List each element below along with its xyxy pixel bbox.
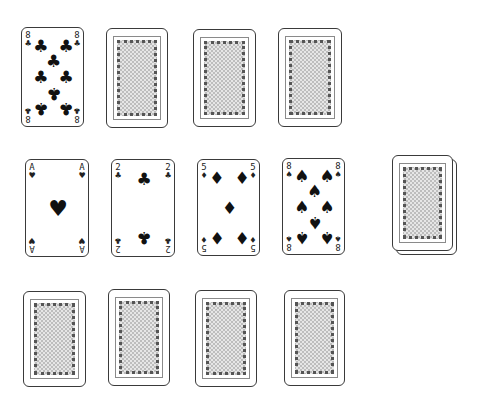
card-back-frame [30, 299, 79, 379]
card-back-frame [113, 36, 161, 120]
card-back-frame [399, 163, 446, 243]
club-pip-icon: ♣ [32, 100, 50, 117]
corner-index-bl: A♥ [28, 236, 36, 253]
card-back-pattern [295, 302, 334, 374]
rank-label: 8 [285, 242, 293, 251]
face-down-card-1-3[interactable] [193, 29, 256, 127]
corner-index-tl: 5♦ [200, 163, 208, 180]
card-8-of-spades[interactable]: 8♠8♠8♠8♠♠♠♠♠♠♠♠♠ [282, 158, 345, 255]
face-down-card-1-4[interactable] [278, 28, 342, 127]
diamond-icon: ♦ [200, 235, 208, 243]
corner-index-bl: 8♠ [285, 234, 293, 251]
rank-label: 2 [114, 244, 122, 253]
card-a-of-hearts[interactable]: A♥A♥A♥A♥♥ [25, 159, 89, 257]
face-down-card-3-1[interactable] [23, 291, 86, 387]
corner-index-tl: 8♠ [285, 162, 293, 179]
card-2-of-clubs[interactable]: 2♣2♣2♣2♣♣♣ [111, 159, 175, 257]
card-back-frame [291, 298, 338, 378]
club-icon: ♣ [114, 172, 122, 180]
draw-pile-deck[interactable] [392, 155, 453, 251]
heart-icon: ♥ [28, 172, 36, 180]
spade-pip-icon: ♠ [293, 229, 311, 246]
diamond-pip-icon: ♦ [233, 229, 251, 246]
face-down-card-3-4[interactable] [284, 290, 345, 386]
card-back-frame [202, 298, 250, 379]
card-back-frame [115, 297, 163, 378]
rank-label: A [28, 244, 36, 253]
card-back-pattern [119, 301, 159, 374]
card-8-of-clubs[interactable]: 8♣8♣8♣8♣♣♣♣♣♣♣♣♣ [21, 27, 84, 127]
spade-icon: ♠ [285, 171, 293, 179]
card-back-pattern [289, 40, 331, 115]
corner-index-tl: A♥ [28, 163, 36, 180]
card-back-pattern [206, 302, 246, 375]
club-pip-icon: ♣ [57, 100, 75, 117]
club-pip-icon: ♣ [135, 171, 153, 188]
face-down-card-1-2[interactable] [106, 28, 168, 128]
diamond-pip-icon: ♦ [208, 229, 226, 246]
corner-index-br: A♥ [78, 236, 86, 253]
card-back-frame [200, 37, 249, 119]
corner-index-tl: 8♣ [24, 31, 32, 48]
diamond-pip-icon: ♦ [208, 170, 226, 187]
heart-pip-icon: ♥ [47, 198, 69, 220]
card-back-pattern [204, 41, 245, 115]
corner-index-br: 2♣ [164, 236, 172, 253]
club-icon: ♣ [114, 236, 122, 244]
rank-label: A [78, 244, 86, 253]
corner-index-bl: 5♦ [200, 235, 208, 252]
corner-index-bl: 2♣ [114, 236, 122, 253]
card-back-frame [285, 36, 335, 119]
face-down-card-3-2[interactable] [108, 289, 170, 386]
club-icon: ♣ [24, 106, 32, 114]
rank-label: 5 [200, 243, 208, 252]
card-back-pattern [403, 167, 442, 239]
corner-index-tr: A♥ [78, 163, 86, 180]
heart-icon: ♥ [78, 236, 86, 244]
club-icon: ♣ [164, 172, 172, 180]
heart-icon: ♥ [78, 172, 86, 180]
corner-index-tl: 2♣ [114, 163, 122, 180]
club-icon: ♣ [24, 40, 32, 48]
face-down-card-3-3[interactable] [195, 290, 257, 387]
spade-icon: ♠ [285, 234, 293, 242]
rank-label: 2 [164, 244, 172, 253]
corner-index-tr: 2♣ [164, 163, 172, 180]
club-pip-icon: ♣ [135, 229, 153, 246]
diamond-pip-icon: ♦ [221, 200, 239, 217]
heart-icon: ♥ [28, 236, 36, 244]
card-back-pattern [34, 303, 75, 375]
diamond-icon: ♦ [200, 172, 208, 180]
diamond-pip-icon: ♦ [233, 170, 251, 187]
card-back-pattern [117, 40, 157, 116]
card-5-of-diamonds[interactable]: 5♦5♦5♦5♦♦♦♦♦♦ [197, 159, 260, 256]
club-icon: ♣ [164, 236, 172, 244]
corner-index-bl: 8♣ [24, 106, 32, 123]
spade-pip-icon: ♠ [318, 229, 336, 246]
rank-label: 8 [24, 114, 32, 123]
